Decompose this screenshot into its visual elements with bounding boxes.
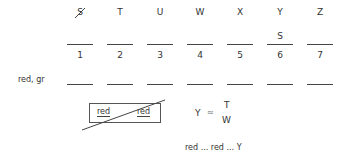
letter-4: W [188,7,212,17]
cross-out-line-icon [80,98,170,132]
letter-2: T [108,7,132,17]
answer-blank-1[interactable] [67,84,93,85]
blank-line-5[interactable] [227,44,253,45]
answer-blank-4[interactable] [187,84,213,85]
sequence-text: red ... red ... Y [185,143,242,152]
number-1: 1 [68,50,92,60]
blank-line-2[interactable] [107,44,133,45]
blank-line-1[interactable] [67,44,93,45]
blank-value-6: S [268,31,292,41]
answer-blank-5[interactable] [227,84,253,85]
relation-lhs: Y [195,108,201,118]
answer-blank-2[interactable] [107,84,133,85]
answer-blank-3[interactable] [147,84,173,85]
number-7: 7 [308,50,332,60]
blank-line-6[interactable] [267,44,293,45]
number-4: 4 [188,50,212,60]
relation-top: T [224,100,230,110]
answer-blank-7[interactable] [307,84,333,85]
letter-1: S [68,7,92,17]
letter-6: Y [268,7,292,17]
number-6: 6 [268,50,292,60]
blank-line-7[interactable] [307,44,333,45]
letter-7: Z [308,7,332,17]
letter-3: U [148,7,172,17]
number-5: 5 [228,50,252,60]
number-3: 3 [148,50,172,60]
blank-line-3[interactable] [147,44,173,45]
row-label: red, gr [18,75,45,84]
number-2: 2 [108,50,132,60]
relation-bottom: W [222,115,231,125]
answer-blank-6[interactable] [267,84,293,85]
approx-symbol: ≈ [207,108,214,117]
letter-5: X [228,7,252,17]
strike-icon [73,7,87,19]
blank-line-4[interactable] [187,44,213,45]
